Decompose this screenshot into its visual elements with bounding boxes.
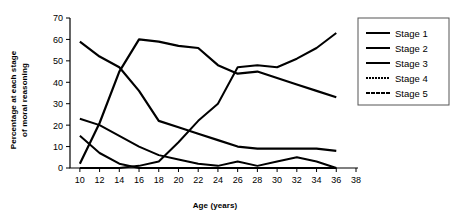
y-axis-title-line2: of moral reasoning — [20, 63, 29, 137]
y-axis-title-line1: Percentage at each stage — [9, 50, 18, 149]
x-tick-label: 38 — [351, 175, 361, 185]
series-line-1 — [80, 136, 336, 168]
legend: Stage 1Stage 2Stage 3Stage 4Stage 5 — [358, 18, 449, 105]
legend-label: Stage 4 — [395, 73, 428, 84]
y-tick-label: 10 — [53, 142, 63, 152]
y-tick-label: 60 — [53, 35, 63, 45]
x-tick-label: 26 — [233, 175, 243, 185]
y-tick-label: 20 — [53, 121, 63, 131]
y-tick-label: 50 — [53, 56, 63, 66]
moral-reasoning-line-chart: Percentage at each stage of moral reason… — [0, 0, 460, 215]
legend-label: Stage 5 — [395, 88, 428, 99]
y-axis-tick-labels: 010203040506070 — [53, 13, 63, 173]
y-tick-label: 0 — [58, 163, 63, 173]
y-tick-label: 70 — [53, 13, 63, 23]
legend-label: Stage 3 — [395, 58, 428, 69]
axis-spines — [70, 18, 358, 168]
x-tick-label: 18 — [154, 175, 164, 185]
legend-item-3[interactable]: Stage 3 — [366, 58, 428, 69]
x-tick-label: 30 — [272, 175, 282, 185]
legend-label: Stage 2 — [395, 43, 428, 54]
x-tick-label: 16 — [134, 175, 144, 185]
x-axis-title: Age (years) — [193, 201, 238, 210]
legend-item-5[interactable]: Stage 5 — [366, 88, 428, 99]
x-tick-label: 32 — [292, 175, 302, 185]
x-tick-label: 28 — [252, 175, 262, 185]
chart-canvas: Percentage at each stage of moral reason… — [0, 0, 460, 215]
y-tick-label: 30 — [53, 99, 63, 109]
legend-label: Stage 1 — [395, 28, 428, 39]
data-series-group — [80, 33, 336, 168]
legend-item-2[interactable]: Stage 2 — [366, 43, 428, 54]
series-line-2 — [80, 119, 336, 168]
x-tick-label: 10 — [75, 175, 85, 185]
legend-item-4[interactable]: Stage 4 — [366, 73, 428, 84]
legend-item-1[interactable]: Stage 1 — [366, 28, 428, 39]
y-tick-label: 40 — [53, 78, 63, 88]
x-axis-tick-labels: 101214161820222426283032343638 — [75, 175, 361, 185]
y-axis-title: Percentage at each stage of moral reason… — [9, 50, 29, 149]
x-tick-label: 20 — [173, 175, 183, 185]
x-tick-label: 12 — [95, 175, 105, 185]
x-tick-label: 24 — [213, 175, 223, 185]
x-tick-label: 36 — [331, 175, 341, 185]
x-tick-label: 14 — [114, 175, 124, 185]
x-tick-label: 22 — [193, 175, 203, 185]
x-tick-label: 34 — [312, 175, 322, 185]
